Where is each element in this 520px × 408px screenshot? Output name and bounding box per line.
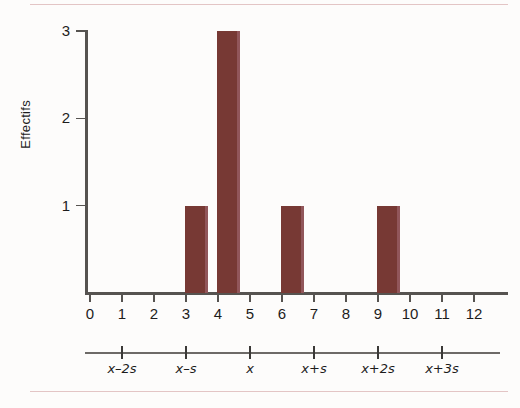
bar-shade xyxy=(397,206,400,293)
bar xyxy=(377,206,400,293)
x-tick-label: 4 xyxy=(206,306,230,321)
secondary-tick xyxy=(441,346,443,359)
secondary-tick-label: x xyxy=(215,362,285,375)
bar-face xyxy=(281,206,301,293)
bar xyxy=(281,206,304,293)
x-tick-label: 1 xyxy=(110,306,134,321)
y-axis-line xyxy=(85,30,88,294)
x-tick xyxy=(217,293,219,302)
secondary-tick-label: x–s xyxy=(151,362,221,375)
bar xyxy=(217,31,240,293)
secondary-tick xyxy=(185,346,187,359)
x-tick-label: 0 xyxy=(78,306,102,321)
secondary-tick-label: x–2s xyxy=(87,362,157,375)
y-axis-title: Effectifs xyxy=(18,100,36,149)
x-tick-label: 7 xyxy=(302,306,326,321)
x-tick xyxy=(441,293,443,302)
x-tick xyxy=(153,293,155,302)
x-tick xyxy=(409,293,411,302)
y-tick xyxy=(76,30,86,32)
bar xyxy=(185,206,208,293)
secondary-tick xyxy=(121,346,123,359)
x-tick xyxy=(185,293,187,302)
y-tick-label: 2 xyxy=(44,110,70,125)
bar-shade xyxy=(237,31,240,293)
x-tick xyxy=(249,293,251,302)
secondary-tick xyxy=(313,346,315,359)
x-tick-label: 12 xyxy=(462,306,486,321)
secondary-tick xyxy=(377,346,379,359)
x-tick-label: 8 xyxy=(334,306,358,321)
x-tick xyxy=(121,293,123,302)
x-tick xyxy=(89,293,91,302)
x-tick-label: 2 xyxy=(142,306,166,321)
x-tick-label: 11 xyxy=(430,306,454,321)
bar-face xyxy=(217,31,237,293)
x-tick xyxy=(345,293,347,302)
y-tick-label: 1 xyxy=(44,198,70,213)
x-tick-label: 9 xyxy=(366,306,390,321)
y-tick-label: 3 xyxy=(44,23,70,38)
x-tick xyxy=(473,293,475,302)
bar-shade xyxy=(301,206,304,293)
bar-face xyxy=(185,206,205,293)
secondary-tick-label: x+s xyxy=(279,362,349,375)
secondary-tick-label: x+3s xyxy=(407,362,477,375)
x-tick xyxy=(377,293,379,302)
bar-shade xyxy=(205,206,208,293)
chart-figure: Effectifs 123 0123456789101112 x–2sx–sxx… xyxy=(0,0,520,408)
x-tick-label: 10 xyxy=(398,306,422,321)
x-tick-label: 3 xyxy=(174,306,198,321)
secondary-tick xyxy=(249,346,251,359)
plot-area: Effectifs 123 0123456789101112 x–2sx–sxx… xyxy=(0,0,520,408)
x-tick xyxy=(313,293,315,302)
x-tick-label: 5 xyxy=(238,306,262,321)
secondary-tick-label: x+2s xyxy=(343,362,413,375)
bar-face xyxy=(377,206,397,293)
secondary-axis-line xyxy=(85,352,500,354)
y-tick xyxy=(76,118,86,120)
x-tick-label: 6 xyxy=(270,306,294,321)
x-tick xyxy=(281,293,283,302)
y-tick xyxy=(76,205,86,207)
